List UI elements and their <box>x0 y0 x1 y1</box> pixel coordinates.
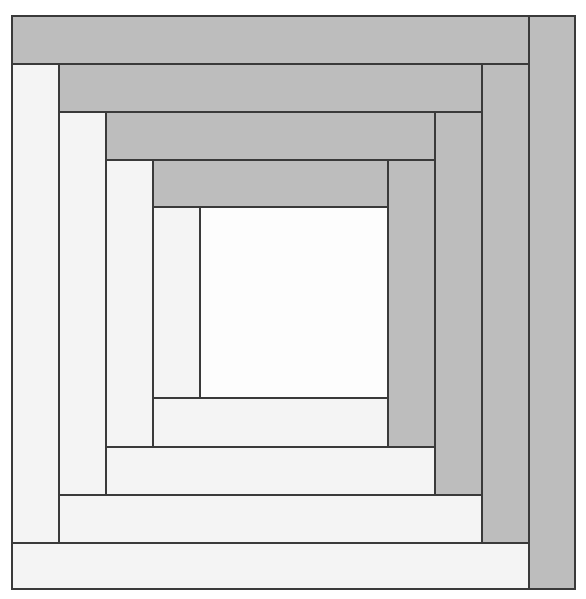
quilt-piece-r3-light-left <box>58 111 107 496</box>
quilt-piece-r4-dark-top <box>11 15 530 65</box>
quilt-piece-r2-dark-right <box>434 111 483 496</box>
quilt-piece-r1-light-left <box>152 206 201 399</box>
quilt-piece-r4-dark-right <box>528 15 576 590</box>
log-cabin-block <box>11 15 576 590</box>
quilt-piece-r2-light-bottom <box>105 446 436 496</box>
quilt-piece-r1-dark-top <box>152 159 389 208</box>
quilt-piece-r2-dark-top <box>105 111 436 161</box>
quilt-piece-r3-light-bottom <box>58 494 483 544</box>
quilt-piece-r1-dark-right <box>387 159 436 448</box>
quilt-piece-r2-light-left <box>105 159 154 448</box>
quilt-piece-r4-light-bottom <box>11 542 530 590</box>
quilt-piece-r3-dark-right <box>481 63 530 544</box>
quilt-piece-r4-light-left <box>11 63 60 544</box>
quilt-piece-center <box>199 206 389 399</box>
quilt-piece-r1-light-bottom <box>152 397 389 448</box>
quilt-piece-r3-dark-top <box>58 63 483 113</box>
